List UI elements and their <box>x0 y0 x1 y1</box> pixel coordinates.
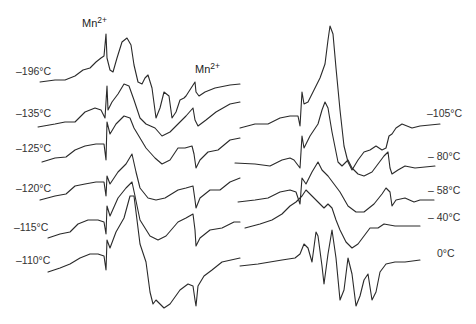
spectrum-trace--196C <box>40 34 240 118</box>
spectrum-trace-0C <box>240 230 420 306</box>
series-label: –120°C <box>16 182 52 194</box>
series-label: – 58°C <box>428 184 461 196</box>
spectrum-trace--135C <box>38 84 240 136</box>
spectrum-trace--125C <box>42 116 240 168</box>
left-panel-traces <box>38 34 240 308</box>
series-label: –115°C <box>14 221 49 233</box>
spectrum-trace--40C <box>245 190 420 248</box>
series-label: –135°C <box>16 107 52 119</box>
series-label: –125°C <box>16 142 52 154</box>
spectrum-trace--115C <box>48 182 240 246</box>
spectrum-trace--120C <box>40 154 240 208</box>
series-label: – 40°C <box>428 211 461 223</box>
spectrum-trace--105C <box>240 26 440 170</box>
mn-annotation-left: Mn2+ <box>82 15 107 29</box>
series-label: 0°C <box>437 247 455 259</box>
spectrum-trace--110C <box>48 196 240 308</box>
epr-spectra-figure: Mn2+ Mn2+ –196°C –135°C –125°C –120°C –1… <box>0 0 476 324</box>
series-label: –196°C <box>16 65 52 77</box>
series-label: –105°C <box>427 107 463 119</box>
series-label: –110°C <box>16 254 51 266</box>
spectrum-trace--80C <box>235 102 435 176</box>
right-panel-traces <box>235 26 440 306</box>
mn-annotation-right: Mn2+ <box>195 61 220 75</box>
spectrum-trace--58C <box>238 162 434 212</box>
series-label: – 80°C <box>428 150 461 162</box>
